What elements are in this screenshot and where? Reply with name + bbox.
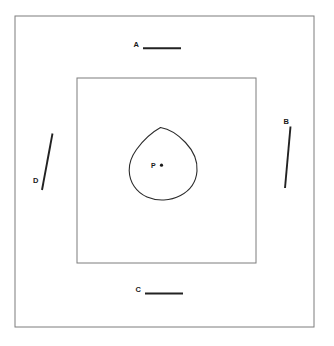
segment-c-label: C (136, 285, 142, 294)
figure-canvas: P A B C D (0, 0, 334, 346)
point-p-label: P (151, 162, 156, 169)
geometry-figure-svg: P A B C D (0, 0, 334, 346)
segment-a-label: A (134, 40, 140, 49)
point-p-dot (160, 164, 163, 167)
segment-b-label: B (284, 117, 290, 126)
segment-d-label: D (33, 176, 39, 185)
